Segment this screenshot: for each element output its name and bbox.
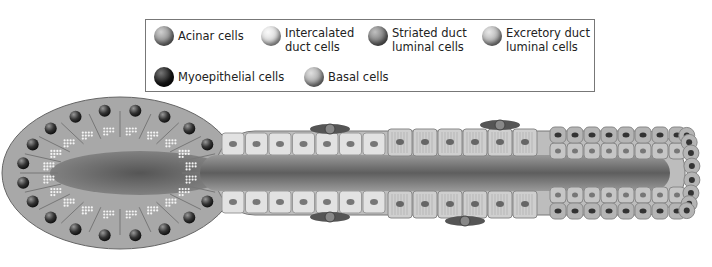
- secretory-granule: [185, 150, 187, 152]
- secretory-granule: [109, 127, 111, 129]
- secretory-granule: [185, 153, 187, 155]
- secretory-granule: [165, 139, 167, 141]
- legend-item-excretory: Excretory duct luminal cells: [482, 26, 590, 54]
- secretory-granule: [195, 162, 197, 164]
- secretory-granule: [135, 127, 137, 129]
- cell-nucleus: [686, 139, 692, 145]
- secretory-granule: [168, 202, 170, 204]
- duct-lumen: [200, 155, 670, 191]
- myoepithelial-nucleus: [158, 111, 170, 123]
- cell-nucleus: [589, 209, 596, 214]
- secretory-granule: [168, 199, 170, 201]
- secretory-granule: [82, 137, 84, 139]
- legend-item-intercalated: Intercalated duct cells: [261, 26, 354, 54]
- cell-nucleus: [572, 209, 579, 214]
- cell-nucleus: [572, 149, 578, 154]
- secretory-granule: [82, 212, 84, 214]
- secretory-granule: [165, 205, 167, 207]
- myoepithelial-nucleus: [70, 111, 82, 123]
- myoepithelial-nucleus: [158, 223, 170, 235]
- secretory-granule: [69, 202, 71, 204]
- secretory-granule: [189, 178, 191, 180]
- cell-nucleus: [606, 149, 612, 154]
- cell-nucleus: [657, 193, 663, 198]
- secretory-granule: [192, 165, 194, 167]
- secretory-granule: [56, 188, 58, 190]
- secretory-granule: [85, 212, 87, 214]
- secretory-granule: [171, 142, 173, 144]
- secretory-granule: [112, 127, 114, 129]
- legend-label: Intercalated duct cells: [285, 26, 354, 54]
- secretory-granule: [52, 165, 54, 167]
- secretory-granule: [129, 130, 131, 132]
- secretory-granule: [150, 131, 152, 133]
- secretory-granule: [171, 202, 173, 204]
- cell-nucleus: [347, 199, 355, 205]
- secretory-granule: [103, 127, 105, 129]
- secretory-granule: [56, 191, 58, 193]
- myoepithelial-nucleus: [183, 122, 195, 134]
- secretory-granule: [185, 191, 187, 193]
- secretory-granule: [189, 181, 191, 183]
- secretory-granule: [153, 134, 155, 136]
- secretory-granule: [52, 175, 54, 177]
- myoepithelial-nucleus: [99, 229, 111, 241]
- secretory-granule: [195, 165, 197, 167]
- cell-nucleus: [471, 139, 479, 145]
- cell-nucleus: [421, 139, 429, 145]
- secretory-granule: [156, 206, 158, 208]
- myoepithelial-nucleus: [17, 157, 29, 169]
- cell-nucleus: [623, 133, 630, 138]
- secretory-granule: [85, 206, 87, 208]
- secretory-granule: [106, 210, 108, 212]
- secretory-granule: [168, 142, 170, 144]
- secretory-granule: [171, 139, 173, 141]
- secretory-granule: [135, 130, 137, 132]
- cell-nucleus: [674, 149, 680, 154]
- cell-nucleus: [276, 199, 284, 205]
- myoepithelial-nucleus: [17, 177, 29, 189]
- secretory-granule: [109, 210, 111, 212]
- secretory-granule: [132, 213, 134, 215]
- secretory-granule: [106, 127, 108, 129]
- cell-nucleus: [300, 199, 308, 205]
- secretory-granule: [147, 209, 149, 211]
- myoepithelial-cell-swatch-icon: [154, 67, 174, 87]
- secretory-granule: [49, 162, 51, 164]
- secretory-granule: [189, 175, 191, 177]
- secretory-granule: [171, 199, 173, 201]
- secretory-granule: [103, 210, 105, 212]
- secretory-granule: [66, 142, 68, 144]
- secretory-granule: [150, 137, 152, 139]
- cell-nucleus: [688, 190, 694, 196]
- myoepithelial-nucleus: [27, 196, 39, 208]
- secretory-granule: [165, 142, 167, 144]
- cell-nucleus: [229, 199, 237, 205]
- myoepithelial-nucleus: [201, 196, 213, 208]
- secretory-granule: [49, 165, 51, 167]
- secretory-granule: [182, 191, 184, 193]
- secretory-granule: [150, 134, 152, 136]
- cell-nucleus: [589, 193, 595, 198]
- secretory-granule: [126, 216, 128, 218]
- secretory-granule: [126, 210, 128, 212]
- secretory-granule: [182, 194, 184, 196]
- secretory-granule: [72, 199, 74, 201]
- myoepithelial-nucleus: [99, 105, 111, 117]
- secretory-granule: [189, 168, 191, 170]
- cell-nucleus: [555, 209, 562, 214]
- secretory-granule: [186, 168, 188, 170]
- cell-nucleus: [555, 133, 562, 138]
- cell-nucleus: [640, 193, 646, 198]
- cell-nucleus: [688, 150, 694, 156]
- secretory-granule: [192, 178, 194, 180]
- cell-nucleus: [460, 216, 470, 226]
- secretory-granule: [188, 191, 190, 193]
- secretory-granule: [53, 194, 55, 196]
- secretory-granule: [195, 178, 197, 180]
- secretory-granule: [82, 131, 84, 133]
- striated-cell-swatch-icon: [368, 26, 388, 46]
- secretory-granule: [59, 191, 61, 193]
- secretory-granule: [192, 162, 194, 164]
- secretory-granule: [188, 150, 190, 152]
